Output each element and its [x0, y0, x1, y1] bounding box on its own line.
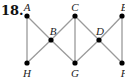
- node-b: [48, 37, 53, 42]
- problem-number: 18.: [1, 3, 24, 18]
- node-label-g: G: [71, 67, 79, 79]
- node-e: [119, 13, 124, 18]
- node-label-d: D: [95, 25, 104, 37]
- node-c: [72, 13, 77, 18]
- node-h: [24, 60, 29, 65]
- node-label-f: F: [120, 67, 125, 79]
- node-label-h: H: [22, 67, 32, 79]
- node-a: [24, 13, 29, 18]
- node-label-c: C: [71, 1, 79, 13]
- graph-diagram: 18. ABCDEFGH: [0, 0, 125, 83]
- node-label-b: B: [50, 25, 57, 37]
- node-d: [96, 37, 101, 42]
- node-label-e: E: [120, 1, 125, 13]
- edge-a-b: [27, 16, 51, 40]
- edge-d-f: [99, 40, 122, 63]
- node-label-a: A: [23, 1, 31, 13]
- edge-d-g: [75, 40, 99, 63]
- node-f: [119, 60, 124, 65]
- edge-b-g: [51, 40, 75, 63]
- edges: [27, 16, 122, 63]
- edge-b-h: [27, 40, 51, 63]
- node-labels: ABCDEFGH: [22, 1, 125, 79]
- node-g: [72, 60, 77, 65]
